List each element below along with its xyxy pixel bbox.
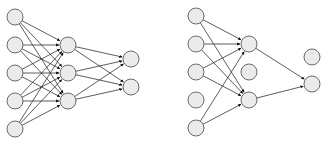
hidden-node <box>241 36 257 52</box>
connection-edge <box>256 48 305 79</box>
input-node <box>188 64 204 80</box>
hidden-node <box>60 65 76 81</box>
output-node <box>123 79 139 95</box>
input-node <box>188 92 204 108</box>
hidden-node <box>60 93 76 109</box>
connection-edge <box>75 64 124 97</box>
connection-edge <box>257 86 304 98</box>
dropout-network <box>188 8 320 136</box>
output-node <box>123 51 139 67</box>
neural-network-diagram <box>0 0 324 149</box>
hidden-node <box>241 64 257 80</box>
input-node <box>7 121 23 137</box>
input-node <box>188 120 204 136</box>
connection-edge <box>19 53 63 123</box>
input-node <box>188 8 204 24</box>
output-node <box>304 76 320 92</box>
standard-network <box>7 9 139 137</box>
connection-edge <box>200 23 244 93</box>
connection-edge <box>76 89 122 99</box>
input-node <box>7 9 23 25</box>
hidden-node <box>241 92 257 108</box>
output-node <box>304 49 320 65</box>
input-node <box>7 65 23 81</box>
input-node <box>7 37 23 53</box>
connection-edge <box>76 47 122 57</box>
input-node <box>7 93 23 109</box>
input-node <box>188 36 204 52</box>
connection-edge <box>200 52 244 122</box>
hidden-node <box>60 37 76 53</box>
